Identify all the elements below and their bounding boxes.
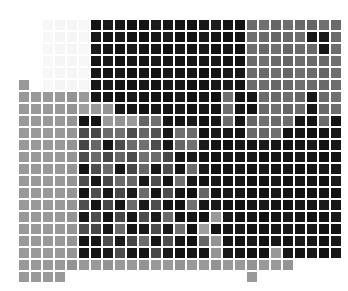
heatmap-cell	[246, 127, 258, 139]
heatmap-cell	[138, 103, 150, 115]
heatmap-cell	[258, 67, 270, 79]
heatmap-cell	[150, 55, 162, 67]
heatmap-cell	[306, 67, 318, 79]
heatmap-cell	[90, 115, 102, 127]
heatmap-cell	[282, 175, 294, 187]
heatmap-cell	[78, 103, 90, 115]
heatmap-cell	[126, 211, 138, 223]
heatmap-cell	[294, 115, 306, 127]
heatmap-cell	[318, 79, 330, 91]
heatmap-cell	[330, 271, 342, 283]
heatmap-row	[6, 151, 342, 163]
heatmap-cell	[42, 235, 54, 247]
heatmap-cell	[294, 139, 306, 151]
heatmap-cell	[210, 91, 222, 103]
heatmap-cell	[42, 31, 54, 43]
heatmap-cell	[174, 235, 186, 247]
heatmap-cell	[102, 247, 114, 259]
heatmap-cell	[42, 139, 54, 151]
heatmap-cell	[126, 259, 138, 271]
heatmap-cell	[114, 163, 126, 175]
heatmap-cell	[78, 43, 90, 55]
heatmap-cell	[198, 115, 210, 127]
heatmap-cell	[210, 67, 222, 79]
heatmap-cell	[138, 199, 150, 211]
heatmap-cell	[186, 127, 198, 139]
heatmap-cell	[150, 247, 162, 259]
heatmap-cell	[90, 55, 102, 67]
heatmap-cell	[258, 151, 270, 163]
heatmap-cell	[42, 211, 54, 223]
heatmap-cell	[306, 235, 318, 247]
heatmap-cell	[246, 19, 258, 31]
heatmap-cell	[18, 235, 30, 247]
heatmap-cell	[210, 247, 222, 259]
heatmap-cell	[30, 31, 42, 43]
heatmap-row	[6, 31, 342, 43]
heatmap-cell	[150, 223, 162, 235]
heatmap-cell	[78, 211, 90, 223]
heatmap-cell	[198, 223, 210, 235]
heatmap-cell	[198, 247, 210, 259]
heatmap-cell	[66, 127, 78, 139]
heatmap-cell	[186, 271, 198, 283]
heatmap-cell	[42, 103, 54, 115]
heatmap-cell	[186, 223, 198, 235]
heatmap-cell	[306, 79, 318, 91]
heatmap-cell	[126, 199, 138, 211]
heatmap-cell	[246, 211, 258, 223]
heatmap-cell	[234, 139, 246, 151]
heatmap-cell	[162, 247, 174, 259]
heatmap-cell	[66, 139, 78, 151]
heatmap-cell	[258, 211, 270, 223]
heatmap-cell	[138, 19, 150, 31]
heatmap-cell	[54, 55, 66, 67]
heatmap-cell	[258, 115, 270, 127]
heatmap-cell	[210, 163, 222, 175]
heatmap-cell	[306, 199, 318, 211]
heatmap-cell	[198, 31, 210, 43]
heatmap-cell	[318, 115, 330, 127]
heatmap-cell	[246, 43, 258, 55]
heatmap-cell	[90, 79, 102, 91]
heatmap-cell	[114, 199, 126, 211]
heatmap-cell	[114, 103, 126, 115]
heatmap-cell	[90, 247, 102, 259]
heatmap-cell	[318, 163, 330, 175]
heatmap-cell	[150, 199, 162, 211]
heatmap-cell	[102, 79, 114, 91]
heatmap-cell	[6, 91, 18, 103]
heatmap-cell	[126, 127, 138, 139]
heatmap-cell	[246, 247, 258, 259]
heatmap-cell	[234, 235, 246, 247]
heatmap-cell	[78, 175, 90, 187]
heatmap-cell	[138, 211, 150, 223]
heatmap-row	[6, 43, 342, 55]
heatmap-cell	[30, 115, 42, 127]
heatmap-cell	[90, 199, 102, 211]
heatmap-cell	[318, 127, 330, 139]
heatmap-cell	[42, 199, 54, 211]
heatmap-cell	[6, 67, 18, 79]
heatmap-cell	[6, 55, 18, 67]
heatmap-cell	[174, 139, 186, 151]
heatmap-cell	[210, 79, 222, 91]
heatmap-cell	[18, 79, 30, 91]
heatmap-cell	[246, 271, 258, 283]
heatmap-row	[6, 271, 342, 283]
heatmap-cell	[294, 91, 306, 103]
heatmap-cell	[6, 223, 18, 235]
heatmap-cell	[306, 211, 318, 223]
heatmap-cell	[174, 199, 186, 211]
heatmap-cell	[54, 67, 66, 79]
heatmap-cell	[78, 67, 90, 79]
heatmap-cell	[138, 31, 150, 43]
heatmap-row	[6, 139, 342, 151]
heatmap-cell	[18, 187, 30, 199]
heatmap-cell	[198, 103, 210, 115]
heatmap-cell	[150, 79, 162, 91]
heatmap-cell	[54, 259, 66, 271]
heatmap-cell	[210, 43, 222, 55]
heatmap-cell	[186, 103, 198, 115]
heatmap-cell	[270, 91, 282, 103]
